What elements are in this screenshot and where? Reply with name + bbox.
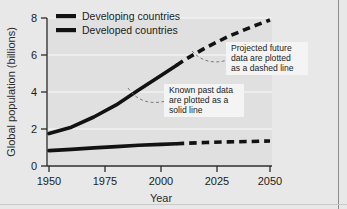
annotation-known-line-2: are plotted as a [169, 95, 228, 105]
legend-swatch-developed [56, 28, 76, 32]
x-axis-title: Year [150, 192, 173, 204]
x-tick-label-1975: 1975 [93, 175, 117, 187]
annotation-projected-line-2: data are plotted [231, 53, 291, 63]
annotation-known-past: Known past data are plotted as a solid l… [164, 84, 244, 117]
annotation-projected-line-3: as a dashed line [231, 63, 294, 73]
population-line-chart: 0 2 4 6 8 1950 1975 2000 2025 2050 Year … [0, 0, 347, 209]
y-axis-ticks [41, 18, 47, 166]
x-tick-label-1950: 1950 [37, 175, 61, 187]
y-tick-label-4: 4 [31, 86, 37, 98]
x-tick-label-2025: 2025 [205, 175, 229, 187]
annotation-projected-future: Projected future data are plotted as a d… [226, 42, 308, 75]
x-tick-label-2000: 2000 [149, 175, 173, 187]
legend-label-developed: Developed countries [82, 24, 178, 36]
y-tick-label-0: 0 [31, 160, 37, 172]
annotation-projected-line-1: Projected future [231, 43, 292, 53]
annotation-known-line-3: solid line [169, 105, 203, 115]
y-tick-label-6: 6 [31, 49, 37, 61]
legend-label-developing: Developing countries [82, 10, 180, 22]
x-axis-ticks [49, 166, 270, 172]
y-tick-label-8: 8 [31, 12, 37, 24]
figure-container: 0 2 4 6 8 1950 1975 2000 2025 2050 Year … [0, 0, 347, 209]
legend-swatch-developing [56, 14, 76, 18]
annotation-known-line-1: Known past data [169, 85, 233, 95]
y-axis-title: Global population (billions) [5, 27, 17, 157]
x-tick-label-2050: 2050 [258, 175, 282, 187]
y-tick-label-2: 2 [31, 123, 37, 135]
